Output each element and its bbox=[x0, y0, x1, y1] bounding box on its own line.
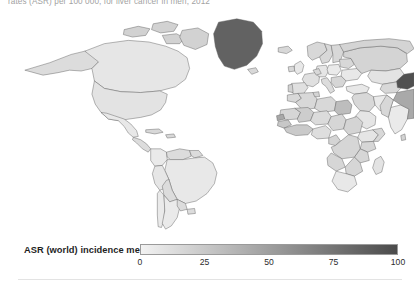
country-niger[interactable] bbox=[311, 111, 332, 125]
legend-tick-50: 50 bbox=[264, 257, 274, 267]
legend-gradient-bar[interactable] bbox=[140, 244, 398, 255]
legend-label: ASR (world) incidence men bbox=[24, 245, 146, 255]
legend-tick-75: 75 bbox=[329, 257, 339, 267]
country-portugal[interactable] bbox=[288, 84, 293, 92]
map-panel bbox=[0, 8, 414, 240]
choropleth-figure: rates (ASR) per 100 000, for liver cance… bbox=[0, 0, 414, 290]
legend-tick-labels: 0 25 50 75 100 bbox=[140, 257, 398, 271]
legend-tick-100: 100 bbox=[391, 257, 405, 267]
country-libya[interactable] bbox=[315, 97, 337, 113]
legend-tick-0: 0 bbox=[138, 257, 143, 267]
bottom-divider bbox=[18, 279, 402, 280]
country-egypt[interactable] bbox=[335, 100, 352, 115]
country-hispaniola[interactable] bbox=[166, 134, 176, 138]
legend: ASR (world) incidence men 0 25 50 75 100 bbox=[0, 240, 414, 274]
legend-tick-25: 25 bbox=[200, 257, 210, 267]
world-map bbox=[0, 8, 414, 240]
country-uruguay[interactable] bbox=[187, 208, 195, 214]
country-ireland[interactable] bbox=[288, 66, 295, 72]
figure-caption: rates (ASR) per 100 000, for liver cance… bbox=[8, 0, 408, 8]
